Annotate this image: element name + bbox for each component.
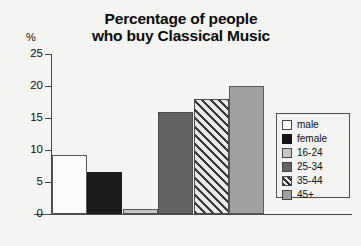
- bar-25-34: [158, 112, 193, 214]
- bar-35-44: [194, 99, 229, 214]
- legend-item-label: 25-34: [297, 162, 323, 172]
- legend-swatch-icon: [282, 190, 292, 200]
- y-axis-tick: [45, 214, 51, 215]
- chart-title-line-1: Percentage of people: [52, 10, 310, 27]
- chart-title: Percentage of people who buy Classical M…: [52, 10, 310, 44]
- legend-item-label: female: [297, 134, 327, 144]
- legend-item-male: male: [282, 118, 349, 131]
- y-axis-tick-label: 15: [19, 112, 43, 123]
- legend-swatch-icon: [282, 134, 292, 144]
- legend-item-label: 45+: [297, 190, 314, 200]
- y-axis-tick-label: 25: [19, 48, 43, 59]
- plot-area: [51, 54, 311, 214]
- bar-45plus: [229, 86, 264, 214]
- classical-music-bar-chart: Percentage of people who buy Classical M…: [0, 0, 361, 246]
- legend-item-label: 16-24: [297, 148, 323, 158]
- x-axis-line: [34, 214, 352, 215]
- bar-female: [87, 172, 122, 214]
- legend-item-label: male: [297, 120, 319, 130]
- legend-swatch-icon: [282, 120, 292, 130]
- chart-title-line-2: who buy Classical Music: [52, 27, 310, 44]
- legend-item-45plus: 45+: [282, 188, 349, 201]
- legend-item-25-34: 25-34: [282, 160, 349, 173]
- legend-item-35-44: 35-44: [282, 174, 349, 187]
- legend-swatch-icon: [282, 176, 292, 186]
- bar-male: [52, 155, 87, 214]
- bar-16-24: [123, 209, 158, 214]
- legend-item-label: 35-44: [297, 176, 323, 186]
- legend-item-female: female: [282, 132, 349, 145]
- y-axis-tick-label: 10: [19, 144, 43, 155]
- legend-item-16-24: 16-24: [282, 146, 349, 159]
- legend-swatch-icon: [282, 162, 292, 172]
- y-axis-tick-label: 0: [19, 208, 43, 219]
- y-axis-tick-label: 20: [19, 80, 43, 91]
- y-axis-tick-label: 5: [19, 176, 43, 187]
- chart-legend: malefemale16-2425-3435-4445+: [276, 113, 350, 198]
- legend-swatch-icon: [282, 148, 292, 158]
- y-axis-unit-label: %: [26, 31, 36, 43]
